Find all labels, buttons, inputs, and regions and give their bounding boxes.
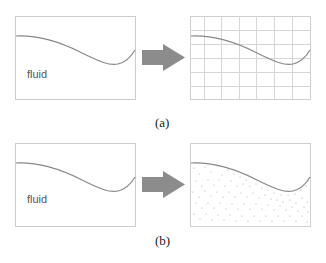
diagram-canvas: fluid (a) xyxy=(0,0,326,263)
panel-b: fluid (b) xyxy=(16,144,311,249)
panel-b-particle-box xyxy=(191,144,311,227)
right-arrow-icon xyxy=(142,44,185,71)
panel-a-grid-box xyxy=(190,16,311,100)
right-arrow-icon xyxy=(142,171,185,198)
caption-a: (a) xyxy=(155,115,169,130)
panel-a: fluid (a) xyxy=(16,16,311,130)
panel-a-fluid-box: fluid xyxy=(16,17,136,100)
caption-b: (b) xyxy=(155,233,170,248)
panel-b-fluid-box: fluid xyxy=(16,144,136,227)
fluid-label: fluid xyxy=(27,193,47,205)
fluid-label: fluid xyxy=(27,68,47,80)
